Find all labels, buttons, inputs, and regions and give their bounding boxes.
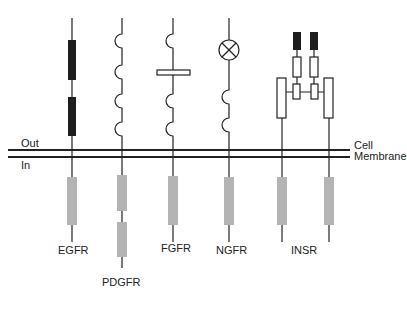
membrane-label: Membrane — [354, 150, 407, 162]
egfr-receptor — [67, 18, 77, 242]
kinase-domain — [67, 177, 77, 225]
pdgfr-receptor — [115, 18, 127, 268]
cysteine-rich-domain-2 — [68, 97, 76, 136]
cysteine-rich-domain-1 — [68, 40, 76, 80]
ngfr-receptor — [219, 18, 239, 242]
kinase-domain — [168, 176, 178, 225]
egfr-label: EGFR — [58, 244, 89, 256]
in-label: In — [21, 159, 30, 171]
out-label: Out — [21, 137, 39, 149]
insr-label: INSR — [291, 244, 317, 256]
cell-membrane — [8, 150, 350, 157]
ngfr-label: NGFR — [216, 244, 247, 256]
acid-box — [157, 70, 190, 75]
kinase-domain — [224, 177, 234, 225]
fgfr-label: FGFR — [161, 242, 191, 254]
kinase-domain-1 — [117, 175, 127, 211]
insr-receptor — [277, 32, 334, 242]
pdgfr-label: PDGFR — [102, 276, 141, 288]
fgfr-receptor — [157, 18, 190, 242]
kinase-domain-2 — [117, 222, 127, 257]
